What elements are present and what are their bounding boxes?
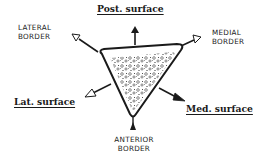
lateral-surface-label: Lat. surface: [14, 97, 75, 106]
anterior-border-arrow: [130, 116, 136, 130]
medial-border-line2: BORDER: [212, 38, 244, 45]
bone-cross-section-diagram: Post. surface LATERAL BORDER MEDIAL BORD…: [0, 0, 271, 160]
lateral-border-line1: LATERAL: [18, 24, 51, 31]
medial-surface-label: Med. surface: [186, 104, 253, 113]
posterior-surface-arrow: [131, 26, 139, 45]
lateral-border-line2: BORDER: [18, 33, 51, 40]
bone-triangle: [100, 44, 182, 117]
lateral-border-label: LATERAL BORDER: [18, 24, 51, 42]
medial-border-label: MEDIAL BORDER: [212, 29, 244, 47]
anterior-border-line2: BORDER: [106, 145, 162, 152]
lateral-surface-arrow: [85, 84, 111, 97]
medial-border-arrow: [181, 35, 201, 46]
medial-border-line1: MEDIAL: [212, 29, 244, 36]
medial-surface-arrow: [159, 88, 185, 101]
lateral-border-arrow: [72, 34, 98, 52]
anterior-border-line1: ANTERIOR: [106, 136, 162, 143]
anterior-border-label: ANTERIOR BORDER: [106, 136, 162, 154]
posterior-surface-label: Post. surface: [97, 4, 164, 13]
